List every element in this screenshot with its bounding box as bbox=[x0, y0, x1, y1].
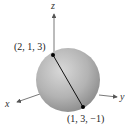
point-bottom bbox=[81, 105, 85, 109]
y-axis-label: y bbox=[119, 91, 125, 102]
x-axis-label: x bbox=[4, 98, 10, 109]
y-axis bbox=[99, 95, 117, 97]
z-axis-label: z bbox=[50, 0, 55, 11]
sphere-diagram: z x y (2, 1, 3) (1, 3, −1) bbox=[0, 0, 130, 129]
point-top bbox=[51, 53, 55, 57]
point-top-label: (2, 1, 3) bbox=[14, 41, 46, 53]
x-axis bbox=[17, 94, 40, 102]
point-bottom-label: (1, 3, −1) bbox=[67, 113, 104, 125]
